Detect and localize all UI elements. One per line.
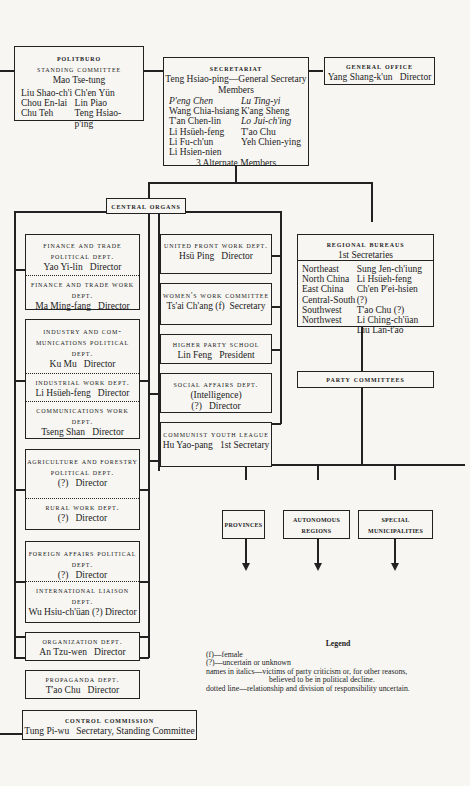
foreign-affairs-box: FOREIGN AFFAIRS POLITICAL DEPT. (?) Dire… bbox=[25, 541, 140, 623]
connector-line bbox=[14, 269, 25, 271]
connector-line bbox=[0, 733, 22, 735]
politburo-member: Chu Teh bbox=[21, 108, 75, 118]
legend-title: Legend bbox=[206, 640, 470, 649]
connector-line bbox=[14, 489, 25, 491]
connector-line bbox=[371, 182, 373, 222]
dept-head: An Tzu-wen bbox=[39, 647, 87, 657]
arrow-down-icon bbox=[391, 563, 399, 571]
general-office-box: GENERAL OFFICE Yang Shang-k'un Director bbox=[324, 57, 435, 85]
dept-role: Director bbox=[209, 401, 241, 411]
secretariat-member: T'ao Chu bbox=[241, 127, 301, 137]
secretariat-member: Li Fu-ch'un bbox=[169, 137, 241, 147]
secretariat-member: Li Hsien-nien bbox=[169, 147, 241, 157]
dept-head: Hsü Ping bbox=[179, 251, 214, 261]
dept-head: Ma Ming-fang bbox=[35, 301, 91, 311]
dept-role: Director bbox=[98, 388, 130, 398]
connector-line bbox=[143, 70, 164, 72]
dept-role: Director bbox=[94, 647, 126, 657]
womens-work-box: WOMEN'S WORK COMMITTEE Ts'ai Ch'ang (f) … bbox=[160, 283, 272, 325]
secretariat-member: Lu Ting-yi bbox=[241, 96, 301, 106]
dept-role: Secretary bbox=[230, 301, 266, 311]
dept-role: Director bbox=[92, 427, 124, 437]
general-office-title: GENERAL OFFICE bbox=[325, 61, 434, 72]
dept-title: FINANCE AND TRADE POLITICAL DEPT. bbox=[26, 240, 139, 262]
region-name: North China bbox=[302, 274, 357, 284]
connector-line bbox=[148, 182, 372, 184]
united-front-box: UNITED FRONT WORK DEPT. Hsü Ping Directo… bbox=[160, 234, 272, 274]
dept-head: Tseng Shan bbox=[41, 427, 85, 437]
connector-line bbox=[139, 581, 149, 583]
secretariat-member: Lo Jui-ch'ing bbox=[241, 116, 301, 126]
connector-line bbox=[14, 636, 25, 638]
secretariat-member: P'eng Chen bbox=[169, 96, 241, 106]
social-affairs-box: SOCIAL AFFAIRS DEPT. (Intelligence) (?) … bbox=[160, 373, 272, 413]
connector-line bbox=[148, 393, 159, 395]
legend: Legend (f)—female (?)—uncertain or unkno… bbox=[206, 640, 470, 694]
region-secretary: Sung Jen-ch'iung bbox=[357, 264, 429, 274]
connector-line bbox=[280, 211, 282, 424]
connector-line bbox=[271, 349, 281, 351]
connector-line bbox=[308, 70, 323, 72]
dept-head: Yao Yi-lin bbox=[44, 262, 83, 272]
region-secretary: T'ao Chu (?) bbox=[357, 305, 429, 315]
dept-role: President bbox=[219, 350, 254, 360]
dept-head: (?) bbox=[58, 570, 69, 580]
control-commission-title: CONTROL COMMISSION bbox=[23, 715, 196, 726]
dept-title: FINANCE AND TRADE WORK DEPT. bbox=[26, 279, 139, 301]
arrow-down-icon bbox=[242, 563, 250, 571]
dept-title: AGRICULTURE AND FORESTRY POLITICAL DEPT. bbox=[26, 456, 139, 478]
dept-title: INDUSTRIAL WORK DEPT. bbox=[26, 377, 139, 388]
politburo-chairman: Mao Tse-tung bbox=[15, 75, 143, 86]
secretariat-member: Yeh Chien-ying bbox=[241, 137, 301, 147]
connector-line bbox=[14, 657, 25, 659]
region-secretary: Li Hsüeh-feng bbox=[357, 274, 429, 284]
dept-role: Director bbox=[76, 513, 108, 523]
region-name: Northeast bbox=[302, 264, 357, 274]
dept-title: WOMEN'S WORK COMMITTEE bbox=[161, 290, 271, 301]
dept-head: Ts'ai Ch'ang (f) bbox=[167, 301, 225, 311]
dept-title: COMMUNICATIONS WORK DEPT. bbox=[26, 405, 139, 427]
region-name: East China bbox=[302, 284, 357, 294]
politburo-title: POLITBURO bbox=[15, 53, 143, 64]
legend-item: dotted line—relationship and division of… bbox=[206, 685, 470, 694]
secretariat-member: Wang Chia-hsiang bbox=[169, 106, 241, 116]
dept-role: Director bbox=[105, 607, 137, 617]
control-commission-head: Tung Pi-wu bbox=[24, 726, 69, 736]
special-municipalities-box: SPECIAL MUNICIPALITIES bbox=[358, 510, 433, 539]
organization-dept-box: ORGANIZATION DEPT. An Tzu-wen Director bbox=[25, 632, 140, 661]
dept-head: (?) bbox=[58, 478, 69, 488]
party-committees-box: PARTY COMMITTEES bbox=[297, 371, 434, 388]
dept-title: INDUSTRY AND COM-MUNICATIONS POLITICAL D… bbox=[26, 326, 139, 359]
secretariat-box: SECRETARIAT Teng Hsiao-ping—General Secr… bbox=[163, 57, 309, 166]
region-secretary: Liu Lan-t'ao bbox=[357, 325, 429, 335]
region-name: Central-South bbox=[302, 295, 357, 305]
politburo-member: Ch'en Yün bbox=[75, 88, 137, 98]
arrow-down-icon bbox=[314, 563, 322, 571]
connector-line bbox=[245, 538, 247, 563]
connector-line bbox=[271, 255, 281, 257]
connector-line bbox=[394, 538, 396, 563]
dept-title: RURAL WORK DEPT. bbox=[26, 502, 139, 513]
politburo-member: Lin Piao bbox=[75, 98, 137, 108]
connector-line bbox=[361, 386, 363, 464]
connector-line bbox=[148, 460, 159, 462]
connector-line bbox=[14, 211, 16, 658]
control-commission-role: Secretary, Standing Committee bbox=[76, 726, 194, 736]
region-secretary: Ch'en P'ei-hsien (?) bbox=[357, 284, 429, 304]
secretariat-alternates: 3 Alternate Members bbox=[164, 158, 308, 169]
dept-role: Director bbox=[76, 478, 108, 488]
dept-title: UNITED FRONT WORK DEPT. bbox=[161, 240, 271, 251]
connector-line bbox=[317, 538, 319, 563]
dept-head: Lin Feng bbox=[177, 350, 212, 360]
provinces-box: PROVINCES bbox=[222, 510, 265, 539]
secretariat-member: T'an Chen-lin bbox=[169, 116, 241, 126]
dept-head: Hu Yao-pang bbox=[163, 440, 213, 450]
dept-head: (?) bbox=[191, 401, 202, 411]
finance-trade-box: FINANCE AND TRADE POLITICAL DEPT. Yao Yi… bbox=[25, 234, 140, 310]
connector-line bbox=[0, 70, 15, 72]
secretariat-general-secretary: Teng Hsiao-ping—General Secretary bbox=[164, 74, 308, 85]
dept-head: Ku Mu bbox=[50, 359, 77, 369]
politburo-subtitle: STANDING COMMITTEE bbox=[15, 64, 143, 75]
politburo-box: POLITBURO STANDING COMMITTEE Mao Tse-tun… bbox=[14, 46, 144, 121]
control-commission-box: CONTROL COMMISSION Tung Pi-wu Secretary,… bbox=[22, 710, 197, 740]
